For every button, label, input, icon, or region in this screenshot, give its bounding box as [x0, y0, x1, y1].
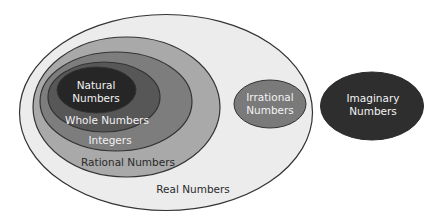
imaginary-numbers-label-line2: Numbers — [349, 105, 397, 117]
integers-label: Integers — [88, 134, 131, 146]
rational-numbers-label: Rational Numbers — [81, 156, 175, 168]
real-numbers-label: Real Numbers — [156, 183, 230, 195]
whole-numbers-label: Whole Numbers — [65, 114, 149, 126]
imaginary-numbers-label-line1: Imaginary — [347, 92, 400, 104]
natural-numbers-label-line1: Natural — [77, 79, 116, 91]
irrational-numbers-label-line2: Numbers — [246, 104, 294, 116]
number-sets-diagram: Natural Numbers Whole Numbers Integers R… — [0, 0, 439, 223]
natural-numbers-label-line2: Numbers — [72, 92, 120, 104]
irrational-numbers-label-line1: Irrational — [246, 91, 293, 103]
